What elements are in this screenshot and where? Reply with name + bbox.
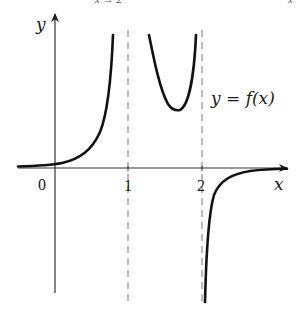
origin-label: 0: [38, 176, 46, 193]
curve-label: y = f(x): [210, 88, 275, 108]
function-graph: x → 2 x y x 0 1 2 y = f(x): [0, 0, 300, 316]
y-axis-label: y: [35, 14, 46, 34]
curve-branch-middle: [149, 35, 196, 110]
tick-label-1: 1: [124, 177, 132, 194]
top-cut-text-left: x → 2: [94, 0, 122, 5]
x-axis-label: x: [274, 174, 284, 194]
curve-branch-left: [18, 35, 113, 167]
top-cut-text-right: x: [287, 0, 293, 5]
tick-label-2: 2: [197, 177, 205, 194]
